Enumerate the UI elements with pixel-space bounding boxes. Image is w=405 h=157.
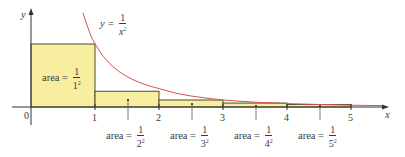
area-label-3: area = 1 32 (170, 124, 209, 149)
curve-label: y = 1 x2 (100, 12, 126, 37)
area-label-5: area = 1 52 (298, 124, 337, 149)
area-label-2: area = 1 22 (106, 124, 145, 149)
area-label-4: area = 1 42 (234, 124, 273, 149)
area-label-1: area = 1 12 (42, 66, 81, 91)
rect-3 (159, 100, 223, 107)
rect-2 (95, 91, 159, 107)
x-tick-3: 3 (220, 112, 225, 123)
x-axis-label: x (385, 110, 390, 121)
y-axis-label: y (21, 10, 26, 21)
x-tick-1: 1 (92, 112, 97, 123)
x-tick-4: 4 (284, 112, 289, 123)
origin-label: 0 (24, 110, 29, 121)
y-axis-arrow-icon (29, 8, 34, 15)
x-tick-2: 2 (156, 112, 161, 123)
x-tick-5: 5 (348, 112, 353, 123)
